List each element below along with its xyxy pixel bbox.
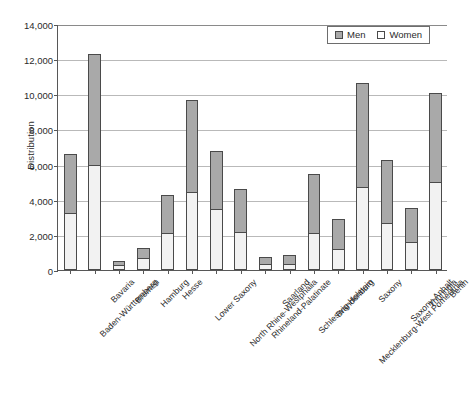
x-axis-tick-mark: [192, 270, 193, 274]
bar-segment-men[interactable]: [64, 154, 77, 213]
x-axis-tick-label: Brandenburg: [333, 277, 375, 319]
bar-segment-men[interactable]: [405, 208, 418, 242]
bar-segment-women[interactable]: [308, 233, 321, 270]
x-axis-tick-mark: [143, 270, 144, 274]
x-axis-tick-mark: [387, 270, 388, 274]
x-axis-tick-mark: [314, 270, 315, 274]
bar-segment-women[interactable]: [234, 232, 247, 270]
bar-column[interactable]: [137, 248, 150, 270]
bar-segment-women[interactable]: [137, 258, 150, 270]
women-swatch-icon: [377, 31, 385, 39]
bar-column[interactable]: [161, 195, 174, 270]
bar-column[interactable]: [283, 255, 296, 270]
x-axis-tick-mark: [338, 270, 339, 274]
y-axis-tick-label: 12,000: [1, 55, 58, 66]
legend-label-men: Men: [347, 29, 365, 40]
bar-segment-women[interactable]: [332, 249, 345, 270]
y-axis-title: Distribution: [25, 86, 36, 206]
bar-column[interactable]: [356, 83, 369, 270]
bar-column[interactable]: [186, 100, 199, 270]
bar-segment-women[interactable]: [186, 192, 199, 270]
bar-column[interactable]: [64, 154, 77, 270]
x-axis-tick-mark: [70, 270, 71, 274]
bar-segment-men[interactable]: [88, 54, 101, 165]
bar-segment-women[interactable]: [429, 182, 442, 270]
bar-segment-men[interactable]: [186, 100, 199, 192]
bar-segment-men[interactable]: [356, 83, 369, 188]
bar-segment-women[interactable]: [405, 242, 418, 270]
bar-segment-men[interactable]: [210, 151, 223, 209]
bar-column[interactable]: [210, 151, 223, 270]
y-axis-tick-label: 4,000: [1, 195, 58, 206]
x-axis-tick-mark: [436, 270, 437, 274]
legend-label-women: Women: [389, 29, 422, 40]
legend-item-women: Women: [377, 29, 422, 40]
bar-segment-women[interactable]: [161, 233, 174, 270]
bar-segment-women[interactable]: [381, 223, 394, 270]
x-axis-tick-mark: [216, 270, 217, 274]
bar-column[interactable]: [234, 189, 247, 270]
bar-column[interactable]: [308, 174, 321, 270]
x-axis-labels: Baden-WürttembergBavariaBremenHamburgHes…: [57, 277, 447, 387]
x-axis-tick-mark: [95, 270, 96, 274]
bar-column[interactable]: [381, 160, 394, 270]
men-swatch-icon: [335, 31, 343, 39]
y-axis-tick-label: 10,000: [1, 90, 58, 101]
bar-column[interactable]: [88, 54, 101, 270]
bar-segment-men[interactable]: [259, 257, 272, 264]
y-axis-tick-label: 8,000: [1, 125, 58, 136]
x-axis-tick-mark: [411, 270, 412, 274]
bar-segment-men[interactable]: [381, 160, 394, 222]
bar-series-group: [58, 25, 447, 270]
x-axis-tick-mark: [290, 270, 291, 274]
bar-segment-men[interactable]: [137, 248, 150, 258]
x-axis-tick-label: Saxony: [376, 277, 403, 304]
bar-segment-women[interactable]: [356, 187, 369, 270]
y-axis-tick-label: 6,000: [1, 160, 58, 171]
y-axis-tick-mark: [54, 271, 58, 272]
bar-segment-men[interactable]: [283, 255, 296, 264]
bar-column[interactable]: [332, 219, 345, 270]
legend-item-men: Men: [335, 29, 365, 40]
bar-segment-men[interactable]: [332, 219, 345, 249]
bar-column[interactable]: [113, 261, 126, 270]
y-axis-tick-label: 0: [1, 266, 58, 277]
plot-area: 02,0004,0006,0008,00010,00012,00014,000: [57, 25, 447, 271]
y-axis-tick-label: 2,000: [1, 230, 58, 241]
bar-segment-women[interactable]: [210, 209, 223, 270]
x-axis-tick-mark: [241, 270, 242, 274]
bar-column[interactable]: [429, 93, 442, 270]
x-axis-tick-label: North Rhine-Westphalia: [248, 277, 319, 348]
x-axis-tick-mark: [363, 270, 364, 274]
x-axis-tick-mark: [265, 270, 266, 274]
x-axis-tick-mark: [168, 270, 169, 274]
bar-segment-men[interactable]: [429, 93, 442, 183]
y-axis-tick-label: 14,000: [1, 20, 58, 31]
x-axis-tick-label: Lower Saxony: [213, 277, 259, 323]
bar-segment-men[interactable]: [234, 189, 247, 232]
bar-column[interactable]: [405, 208, 418, 270]
chart-legend: Men Women: [327, 26, 430, 44]
bar-segment-men[interactable]: [161, 195, 174, 233]
bar-segment-men[interactable]: [308, 174, 321, 233]
bar-segment-women[interactable]: [64, 213, 77, 270]
x-axis-tick-mark: [119, 270, 120, 274]
bar-column[interactable]: [259, 257, 272, 270]
bar-segment-women[interactable]: [88, 165, 101, 270]
figure-caption: [18, 386, 438, 395]
